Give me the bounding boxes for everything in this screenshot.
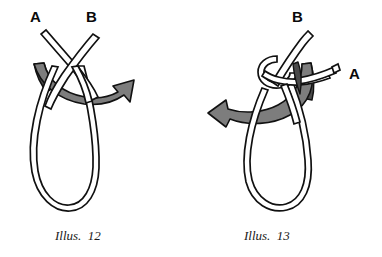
figure-illus-12 <box>30 30 134 211</box>
caption-illus-12: Illus. 12 <box>55 229 101 242</box>
label-a-illus-12: A <box>30 9 41 24</box>
caption-illus-13: Illus. 13 <box>244 229 290 242</box>
label-b-illus-12: B <box>86 9 97 24</box>
knot-illustration-canvas <box>0 0 382 257</box>
label-a-illus-13: A <box>349 66 360 81</box>
figure-illus-13 <box>208 31 340 211</box>
label-b-illus-13: B <box>292 9 303 24</box>
